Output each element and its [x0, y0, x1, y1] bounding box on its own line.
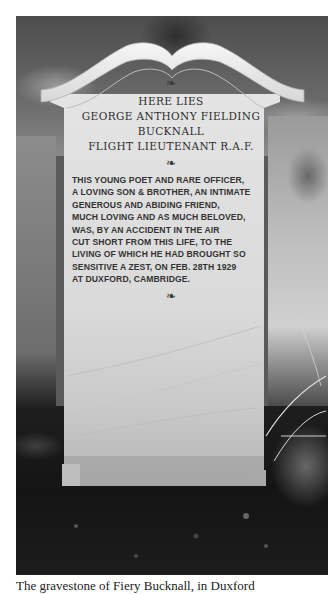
gravestone-photo: ❧ HERE LIES GEORGE ANTHONY FIELDING BUCK… — [16, 16, 328, 575]
epitaph-line: A LOVING SON & BROTHER, AN INTIMATE — [72, 186, 286, 198]
epitaph-line: MUCH LOVING AND AS MUCH BELOVED, — [72, 211, 286, 223]
epitaph-line: THIS YOUNG POET AND RARE OFFICER, — [72, 174, 286, 186]
ornament-top-icon: ❧ — [56, 76, 286, 90]
ornament-middle-icon: ❧ — [56, 156, 286, 170]
epitaph-line: SENSITIVE A ZEST, ON FEB. 28TH 1929 — [72, 261, 286, 273]
inscription-header-line: FLIGHT LIEUTENANT R.A.F. — [56, 139, 286, 154]
gravestone-inscription: ❧ HERE LIES GEORGE ANTHONY FIELDING BUCK… — [56, 76, 286, 303]
inscription-header-line: BUCKNALL — [56, 124, 286, 139]
epitaph-text: THIS YOUNG POET AND RARE OFFICER, A LOVI… — [72, 174, 286, 286]
ornament-bottom-icon: ❧ — [56, 289, 286, 303]
inscription-header-line: GEORGE ANTHONY FIELDING — [56, 109, 286, 124]
inscription-header-line: HERE LIES — [56, 94, 286, 109]
epitaph-line: AT DUXFORD, CAMBRIDGE. — [72, 273, 286, 285]
epitaph-line: LIVING OF WHICH HE HAD BROUGHT SO — [72, 248, 286, 260]
epitaph-line: WAS, BY AN ACCIDENT IN THE AIR — [72, 224, 286, 236]
photo-caption: The gravestone of Fiery Bucknall, in Dux… — [16, 578, 335, 594]
epitaph-line: GENEROUS AND ABIDING FRIEND, — [72, 199, 286, 211]
epitaph-line: CUT SHORT FROM THIS LIFE, TO THE — [72, 236, 286, 248]
